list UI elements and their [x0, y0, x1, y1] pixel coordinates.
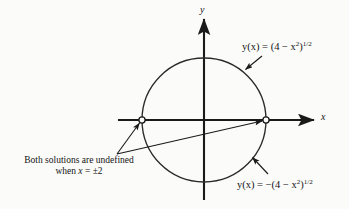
note-line-2-prefix: when [55, 166, 78, 176]
marker-right-root [263, 117, 269, 123]
note-line-1: Both solutions are undefined [4, 155, 154, 166]
figure-canvas: y x y(x) = (4 − x2)1/2 y(x) = −(4 − x2)1… [0, 0, 349, 209]
equation-bottom-lhs: y(x) = −(4 − x [237, 179, 297, 190]
equation-top-lhs: y(x) = (4 − x [242, 41, 296, 52]
undefined-solutions-note: Both solutions are undefined when x = ±2 [4, 155, 154, 177]
equation-bottom-outer-exponent: 1/2 [304, 178, 313, 186]
y-axis-label: y [200, 4, 204, 16]
note-line-2: when x = ±2 [4, 166, 154, 177]
callout-line-equation-bottom [253, 158, 269, 175]
leader-line-right-root [117, 121, 262, 154]
marker-left-root [139, 117, 145, 123]
equation-top-outer-exponent: 1/2 [303, 40, 312, 48]
x-axis-label: x [321, 111, 325, 123]
note-line-2-suffix: = ±2 [83, 166, 103, 176]
callout-line-equation-top [246, 56, 263, 70]
equation-top-label: y(x) = (4 − x2)1/2 [242, 41, 312, 53]
equation-bottom-label: y(x) = −(4 − x2)1/2 [237, 179, 313, 191]
